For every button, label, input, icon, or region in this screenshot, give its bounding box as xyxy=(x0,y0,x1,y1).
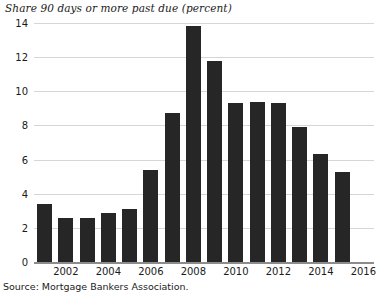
x-axis-tick-label: 2002 xyxy=(53,266,78,277)
bar xyxy=(207,61,222,262)
y-axis-tick-label: 8 xyxy=(22,120,28,131)
bar xyxy=(250,102,265,262)
bar xyxy=(292,127,307,262)
x-axis-tick-label: 2010 xyxy=(223,266,248,277)
chart-figure: Share 90 days or more past due (percent)… xyxy=(0,0,378,297)
y-axis-tick-label: 14 xyxy=(15,18,28,29)
x-axis: 20022004200620082010201220142016 xyxy=(34,264,374,282)
bar xyxy=(186,26,201,262)
y-axis-tick-label: 6 xyxy=(22,154,28,165)
x-axis-tick-label: 2006 xyxy=(138,266,163,277)
y-axis-tick-label: 4 xyxy=(22,188,28,199)
bar xyxy=(165,113,180,262)
y-axis-tick-label: 10 xyxy=(15,86,28,97)
plot-area: 02468101214 xyxy=(34,23,374,262)
bar xyxy=(313,154,328,262)
y-axis-tick-label: 0 xyxy=(22,257,28,268)
x-axis-tick-label: 2016 xyxy=(351,266,376,277)
y-axis-tick-label: 12 xyxy=(15,52,28,63)
bar xyxy=(101,213,116,263)
x-axis-tick-label: 2014 xyxy=(308,266,333,277)
y-axis-tick-label: 2 xyxy=(22,222,28,233)
bar xyxy=(37,204,52,262)
bar xyxy=(80,218,95,262)
x-axis-tick-label: 2004 xyxy=(96,266,121,277)
x-axis-tick-label: 2008 xyxy=(181,266,206,277)
bar xyxy=(271,103,286,262)
bar xyxy=(58,218,73,262)
bar xyxy=(143,170,158,262)
chart-title: Share 90 days or more past due (percent) xyxy=(5,2,232,14)
source-note: Source: Mortgage Bankers Association. xyxy=(3,281,189,292)
x-axis-tick-label: 2012 xyxy=(266,266,291,277)
bar xyxy=(228,103,243,262)
bar-series xyxy=(34,23,374,262)
bar xyxy=(335,172,350,262)
bar xyxy=(122,209,137,262)
